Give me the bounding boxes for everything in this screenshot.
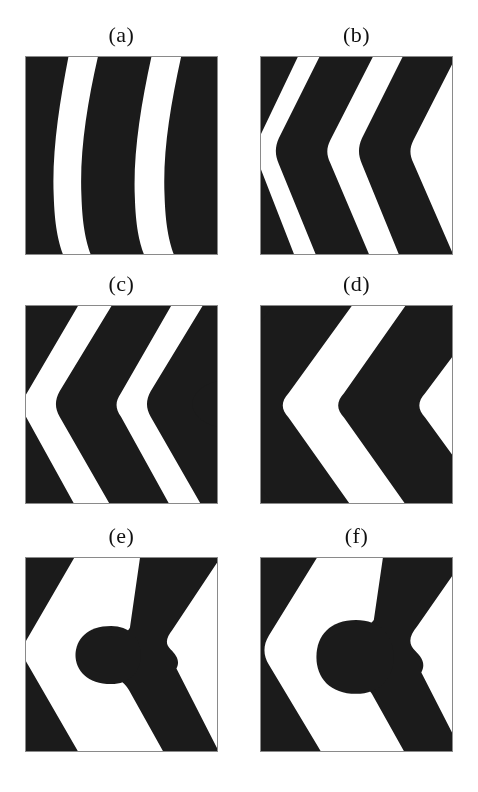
stripe-b-3 xyxy=(359,57,452,254)
stripe-e-1 xyxy=(26,558,79,751)
panel-c: (c) xyxy=(25,273,218,504)
panel-d: (d) xyxy=(260,273,453,504)
pattern-a xyxy=(26,57,217,254)
panel-frame-d xyxy=(260,305,453,504)
pattern-d xyxy=(261,306,452,503)
stripe-a-2 xyxy=(81,57,153,254)
stripe-d-2 xyxy=(338,306,452,503)
stripe-a-3 xyxy=(164,57,217,254)
panel-label-c: (c) xyxy=(25,273,218,295)
pattern-f xyxy=(261,558,452,751)
panel-frame-e xyxy=(25,557,218,752)
pattern-b xyxy=(261,57,452,254)
panel-label-e: (e) xyxy=(25,525,218,547)
panel-b: (b) xyxy=(260,24,453,255)
figure-panel-grid: (a)(b)(c)(d)(e)(f) xyxy=(0,0,478,792)
panel-label-f: (f) xyxy=(260,525,453,547)
stripe-a-1 xyxy=(26,57,70,254)
stripe-f-1 xyxy=(261,558,322,751)
panel-a: (a) xyxy=(25,24,218,255)
panel-f: (f) xyxy=(260,525,453,752)
panel-frame-c xyxy=(25,305,218,504)
panel-label-d: (d) xyxy=(260,273,453,295)
panel-label-a: (a) xyxy=(25,24,218,46)
panel-frame-b xyxy=(260,56,453,255)
panel-e: (e) xyxy=(25,525,218,752)
stripe-e-3 xyxy=(75,626,140,684)
panel-frame-f xyxy=(260,557,453,752)
stripe-f-3 xyxy=(316,620,393,694)
pattern-e xyxy=(26,558,217,751)
pattern-c xyxy=(26,306,217,503)
panel-frame-a xyxy=(25,56,218,255)
panel-label-b: (b) xyxy=(260,24,453,46)
